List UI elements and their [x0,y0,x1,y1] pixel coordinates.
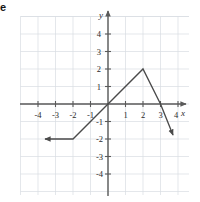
grid-lines [21,17,190,196]
y-tick-label-3: 3 [97,47,101,57]
x-tick-label-neg4: -4 [34,110,42,120]
x-tick-label-3: 3 [158,110,162,120]
x-tick-label-neg3: -3 [52,110,59,120]
y-tick-label-2: 2 [97,64,101,74]
y-tick-label-neg1: -1 [96,117,103,127]
x-tick-label-1: 1 [123,110,127,120]
y-tick-label-1: 1 [97,82,101,92]
x-axis-label: x [180,108,185,118]
x-tick-label-2: 2 [141,110,145,120]
y-tick-label-neg3: -3 [96,152,103,162]
y-tick-label-neg4: -4 [96,169,104,179]
y-axis-label: y [98,10,103,20]
x-tick-label-neg2: -2 [69,110,76,120]
y-tick-label-neg2: -2 [96,134,103,144]
coordinate-plane-plot: -4 -3 -2 -1 1 2 3 4 4 3 2 1 -1 -2 -3 -4 … [0,0,200,202]
graph-screenshot: e [0,0,200,202]
